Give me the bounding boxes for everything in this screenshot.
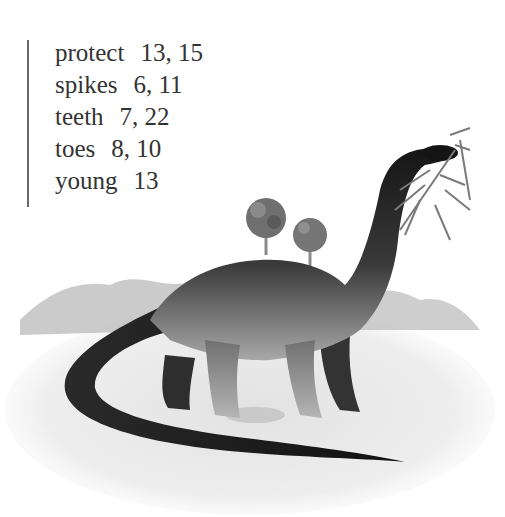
dinosaur-illustration (0, 0, 505, 517)
tree-icon (246, 198, 286, 255)
tree-icon (293, 218, 327, 268)
